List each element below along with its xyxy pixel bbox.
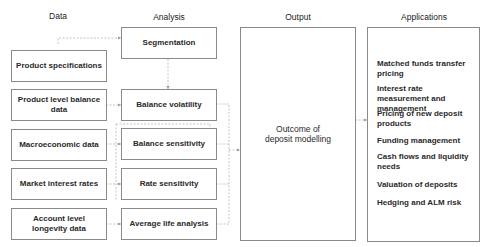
data-box-market-interest-rates: Market interest rates <box>11 168 107 200</box>
column-title-output: Output <box>268 12 328 22</box>
application-item: Cash flows and liquidity needs <box>377 152 477 172</box>
output-text-line2: deposit modelling <box>265 134 331 144</box>
data-box-product-specifications: Product specifications <box>11 50 107 82</box>
analysis-box-rate-sensitivity: Rate sensitivity <box>121 168 217 200</box>
application-item: Matched funds transfer pricing <box>377 59 477 79</box>
data-box-product-level-balance: Product level balance data <box>11 89 107 121</box>
output-box: Outcome of deposit modelling <box>240 27 356 241</box>
application-item: Pricing of new deposit products <box>377 109 477 129</box>
data-box-account-longevity: Account level longevity data <box>11 208 107 240</box>
application-item: Hedging and ALM risk <box>377 198 477 208</box>
application-item: Funding management <box>377 136 477 146</box>
analysis-box-average-life: Average life analysis <box>121 208 217 240</box>
column-title-analysis: Analysis <box>141 12 197 22</box>
column-title-data: Data <box>38 11 78 21</box>
analysis-box-balance-sensitivity: Balance sensitivity <box>121 128 217 160</box>
application-item: Valuation of deposits <box>377 180 477 190</box>
column-title-applications: Applications <box>388 12 460 22</box>
applications-box: Matched funds transfer pricing Interest … <box>367 27 480 242</box>
data-box-macroeconomic: Macroeconomic data <box>11 129 107 161</box>
output-text-line1: Outcome of <box>276 124 320 134</box>
analysis-box-segmentation: Segmentation <box>121 27 217 59</box>
analysis-box-balance-volatility: Balance volatility <box>121 89 217 121</box>
